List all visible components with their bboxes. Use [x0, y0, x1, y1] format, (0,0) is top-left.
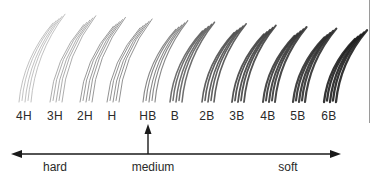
medium-label: medium	[132, 160, 175, 174]
right-edge-divider	[369, 0, 370, 123]
pencil-grade-diagram: 4H3H2HHHBB2B3B4B5B6B hard medium soft	[0, 0, 371, 180]
hardness-scale-arrow	[0, 0, 371, 180]
up-arrowhead-icon	[145, 124, 152, 134]
soft-label: soft	[278, 160, 297, 174]
right-arrowhead-icon	[330, 150, 341, 158]
left-arrowhead-icon	[11, 150, 22, 158]
hard-label: hard	[43, 160, 67, 174]
